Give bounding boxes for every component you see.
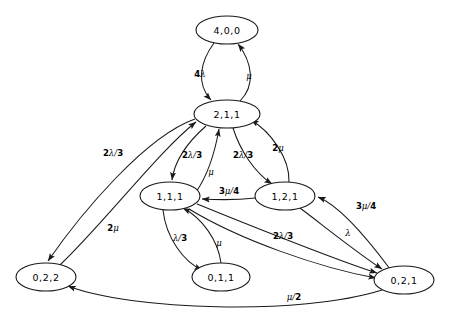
edge-label-111-021: 2λ/3 (273, 231, 293, 241)
nodes-layer: 4,0,0 2,1,1 1,1,1 1,2,1 0,2,2 0,1,1 (16, 16, 434, 294)
edge-label-021-121: 3μ/4 (356, 201, 376, 211)
node-021[interactable]: 0,2,1 (374, 266, 434, 294)
node-022[interactable]: 0,2,2 (16, 263, 76, 291)
edge-label-211-121: 2λ/3 (233, 150, 253, 160)
edge-021-to-121 (318, 197, 390, 269)
edge-label-211-400: μ (246, 71, 252, 81)
node-121-label: 1,2,1 (271, 191, 298, 202)
edge-label-011-111: μ (216, 238, 222, 248)
node-021-label: 0,2,1 (390, 275, 417, 286)
edge-label-111-211: μ (208, 167, 214, 177)
edge-label-121-021: λ (344, 228, 350, 238)
diagram-canvas: 4λ μ 2λ/3 2μ 2λ/3 μ 2λ/3 2μ 3μ/4 3μ/4 λ … (0, 0, 451, 325)
edge-label-121-111: 3μ/4 (219, 186, 239, 196)
node-400[interactable]: 4,0,0 (196, 16, 258, 44)
edge-label-400-211: 4λ (194, 69, 205, 79)
node-121[interactable]: 1,2,1 (255, 182, 315, 210)
node-022-label: 0,2,2 (32, 272, 59, 283)
edge-label-121-211: 2μ (272, 143, 284, 153)
node-111[interactable]: 1,1,1 (140, 182, 200, 210)
edge-121-to-111 (202, 198, 255, 200)
edge-label-111-011: λ/3 (172, 233, 187, 243)
node-400-label: 4,0,0 (213, 25, 240, 36)
state-transition-diagram: 4λ μ 2λ/3 2μ 2λ/3 μ 2λ/3 2μ 3μ/4 3μ/4 λ … (0, 0, 451, 325)
edge-label-211-111: 2λ/3 (182, 150, 202, 160)
node-211-label: 2,1,1 (213, 109, 240, 120)
node-211[interactable]: 2,1,1 (194, 100, 260, 128)
edge-111-to-211 (196, 129, 219, 192)
edge-label-211-022: 2λ/3 (103, 148, 123, 158)
edge-label-022-211: 2μ (107, 223, 119, 233)
edge-121-to-021 (300, 208, 382, 269)
node-011-label: 0,1,1 (207, 272, 234, 283)
node-011[interactable]: 0,1,1 (192, 263, 250, 291)
edge-label-021-022: μ/2 (287, 292, 301, 302)
node-111-label: 1,1,1 (156, 191, 183, 202)
